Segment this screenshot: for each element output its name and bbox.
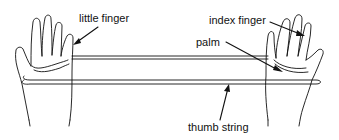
arrowhead-little-finger xyxy=(73,38,81,45)
arrowhead-thumb-string xyxy=(224,84,230,92)
arrow-index-finger xyxy=(270,22,300,34)
label-palm: palm xyxy=(196,37,220,48)
left-hand xyxy=(16,15,73,126)
label-index-finger: index finger xyxy=(209,15,266,26)
arrow-little-finger xyxy=(77,27,98,42)
thumb-string-loop xyxy=(22,76,321,84)
label-thumb-string: thumb string xyxy=(188,122,249,133)
string-figure-illustration xyxy=(0,0,339,140)
arrow-thumb-string xyxy=(220,88,228,120)
label-little-finger: little finger xyxy=(79,13,129,24)
